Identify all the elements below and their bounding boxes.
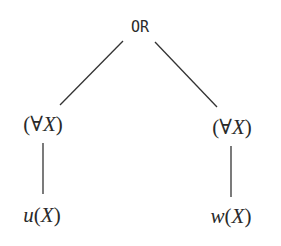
edge-or-right (155, 42, 217, 107)
forall-symbol: ∀ (219, 115, 232, 139)
paren-open: ( (23, 112, 30, 136)
function-name: w (211, 204, 225, 228)
right-quantifier-node: (∀X) (212, 115, 252, 140)
paren-open: ( (225, 204, 232, 228)
paren-close: ) (56, 112, 63, 136)
paren-close: ) (54, 203, 61, 227)
variable: X (232, 115, 245, 139)
variable: X (232, 204, 245, 228)
function-name: u (23, 203, 34, 227)
root-node-or: OR (131, 18, 149, 36)
variable: X (41, 203, 54, 227)
right-leaf-node: w(X) (211, 204, 252, 229)
variable: X (43, 112, 56, 136)
paren-close: ) (244, 204, 251, 228)
paren-open: ( (34, 203, 41, 227)
paren-open: ( (212, 115, 219, 139)
paren-close: ) (245, 115, 252, 139)
left-quantifier-node: (∀X) (23, 112, 63, 137)
edge-or-left (60, 41, 123, 105)
left-leaf-node: u(X) (23, 203, 60, 228)
forall-symbol: ∀ (30, 112, 43, 136)
